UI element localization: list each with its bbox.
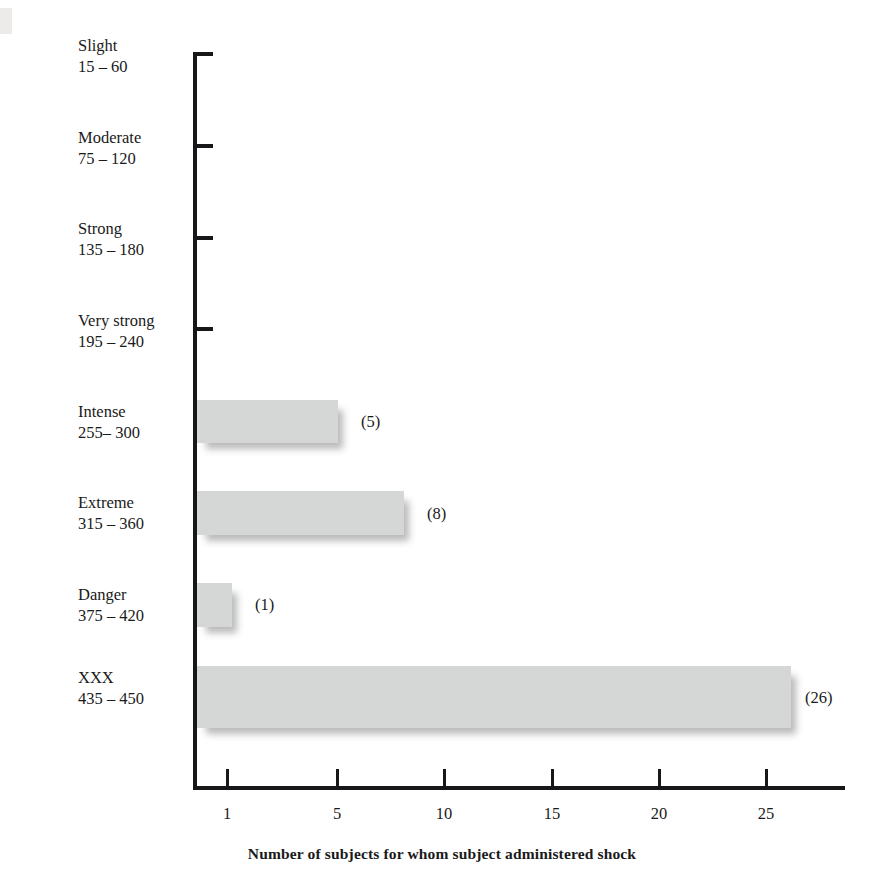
category-range: 135 – 180 xyxy=(78,240,190,261)
bar-chart-figure: Shock-generating voltage and description… xyxy=(0,0,884,889)
category-range: 375 – 420 xyxy=(78,606,190,627)
x-axis-tick-label-20: 20 xyxy=(651,804,668,824)
bar-value-extreme: (8) xyxy=(427,504,446,524)
bar-value-xxx: (26) xyxy=(805,688,833,708)
y-axis-category-label-very-strong: Very strong 195 – 240 xyxy=(78,311,190,353)
x-axis-tick-10 xyxy=(443,769,446,786)
category-name: XXX xyxy=(78,668,190,689)
x-axis-tick-label-1: 1 xyxy=(223,804,231,824)
y-axis-category-label-slight: Slight 15 – 60 xyxy=(78,36,190,78)
category-range: 15 – 60 xyxy=(78,57,190,78)
bar-xxx xyxy=(197,666,791,728)
y-axis-tick-slight xyxy=(197,52,213,56)
category-name: Strong xyxy=(78,219,190,240)
category-range: 255– 300 xyxy=(78,423,190,444)
y-axis-category-label-extreme: Extreme 315 – 360 xyxy=(78,493,190,535)
bar-value-intense: (5) xyxy=(361,412,380,432)
category-name: Very strong xyxy=(78,311,190,332)
y-axis-title: Shock-generating voltage and description xyxy=(0,0,46,889)
bar-danger xyxy=(197,583,232,627)
x-axis-tick-5 xyxy=(336,769,339,786)
category-range: 435 – 450 xyxy=(78,689,190,710)
y-axis-tick-very-strong xyxy=(197,327,213,331)
x-axis-line xyxy=(193,786,845,790)
y-axis-category-label-danger: Danger 375 – 420 xyxy=(78,585,190,627)
category-name: Intense xyxy=(78,402,190,423)
bar-value-danger: (1) xyxy=(255,595,274,615)
x-axis-tick-20 xyxy=(658,769,661,786)
category-name: Extreme xyxy=(78,493,190,514)
y-axis-tick-moderate xyxy=(197,144,213,148)
category-name: Slight xyxy=(78,36,190,57)
x-axis-tick-label-15: 15 xyxy=(544,804,561,824)
category-range: 195 – 240 xyxy=(78,332,190,353)
y-axis-category-label-strong: Strong 135 – 180 xyxy=(78,219,190,261)
y-axis-tick-strong xyxy=(197,236,213,240)
category-range: 315 – 360 xyxy=(78,514,190,535)
bar-intense xyxy=(197,400,338,443)
x-axis-tick-25 xyxy=(765,769,768,786)
x-axis-tick-15 xyxy=(551,769,554,786)
bar-extreme xyxy=(197,491,404,535)
y-axis-category-label-moderate: Moderate 75 – 120 xyxy=(78,128,190,170)
x-axis-tick-label-25: 25 xyxy=(758,804,775,824)
category-name: Moderate xyxy=(78,128,190,149)
y-axis-category-label-xxx: XXX 435 – 450 xyxy=(78,668,190,710)
x-axis-tick-label-5: 5 xyxy=(333,804,341,824)
y-axis-category-label-intense: Intense 255– 300 xyxy=(78,402,190,444)
x-axis-title: Number of subjects for whom subject admi… xyxy=(0,845,884,863)
category-name: Danger xyxy=(78,585,190,606)
category-range: 75 – 120 xyxy=(78,149,190,170)
x-axis-tick-1 xyxy=(226,769,229,786)
plot-area: (5) (8) (1) (26) 1 5 10 15 20 25 xyxy=(193,52,845,790)
x-axis-tick-label-10: 10 xyxy=(436,804,453,824)
